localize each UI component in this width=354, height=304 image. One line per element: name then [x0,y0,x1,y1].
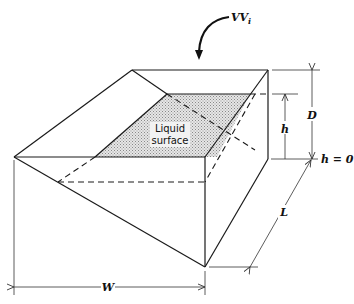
inflow-arrowhead-icon [195,50,203,60]
liquid-label-line2: surface [152,135,189,146]
inflow-label: VVi [231,11,251,26]
inflow-arrow-icon [199,17,229,52]
length-label: L [279,206,288,219]
tank-diagram: Liquid surface VVi D h h = 0 L W [0,0,354,304]
height-label: h [281,123,289,136]
liquid-label-line1: Liquid [155,123,185,134]
depth-label: D [306,109,317,122]
top-inner-edge [132,70,167,94]
width-label: W [102,281,116,294]
bottom-slope-edge [14,157,205,267]
datum-label: h = 0 [321,153,354,166]
bottom-right-edge [205,159,268,267]
hidden-left-edge [58,157,95,182]
